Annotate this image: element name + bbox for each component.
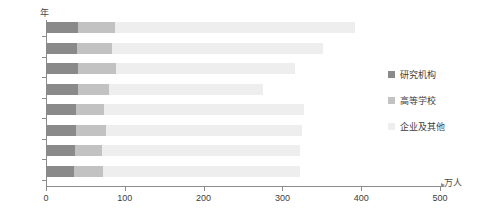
x-axis-tick-label: 100 bbox=[117, 193, 132, 203]
bar-segment bbox=[46, 22, 78, 33]
x-axis-tick-label: 400 bbox=[354, 193, 369, 203]
bar-segment bbox=[46, 104, 76, 115]
legend-label: 研究机构 bbox=[400, 68, 436, 81]
bar-segment bbox=[78, 84, 110, 95]
bar-segment bbox=[46, 166, 74, 177]
x-axis-arrow-icon bbox=[441, 183, 445, 187]
chart-legend: 研究机构高等学校企业及其他 bbox=[388, 68, 445, 133]
y-axis-tick bbox=[42, 77, 46, 78]
legend-swatch-icon bbox=[388, 71, 395, 78]
bar-segment bbox=[109, 84, 263, 95]
legend-swatch-icon bbox=[388, 123, 395, 130]
x-axis-tick bbox=[361, 187, 362, 191]
bar-segment bbox=[116, 63, 295, 74]
y-axis-tick bbox=[42, 98, 46, 99]
stacked-bar-chart: 年 万人 0100200300400500 研究机构高等学校企业及其他 2007… bbox=[0, 0, 477, 215]
x-axis-tick-label: 500 bbox=[432, 193, 447, 203]
bar-segment bbox=[46, 63, 78, 74]
x-axis-tick bbox=[440, 187, 441, 191]
y-axis-tick bbox=[42, 180, 46, 181]
y-axis-tick bbox=[42, 159, 46, 160]
bar-segment bbox=[46, 125, 76, 136]
bar-segment bbox=[104, 104, 304, 115]
y-axis-tick bbox=[42, 139, 46, 140]
y-axis-tick bbox=[42, 36, 46, 37]
x-axis-tick-label: 0 bbox=[43, 193, 48, 203]
bar-segment bbox=[106, 125, 302, 136]
bar-segment bbox=[76, 104, 104, 115]
x-axis-tick-label: 300 bbox=[275, 193, 290, 203]
bar-segment bbox=[78, 63, 116, 74]
bar-segment bbox=[77, 43, 112, 54]
y-axis-tick bbox=[42, 57, 46, 58]
legend-label: 企业及其他 bbox=[400, 120, 445, 133]
x-axis-tick-label: 200 bbox=[196, 193, 211, 203]
bar-segment bbox=[46, 84, 78, 95]
y-axis-tick bbox=[42, 118, 46, 119]
bar-segment bbox=[78, 22, 115, 33]
bar-segment bbox=[75, 145, 102, 156]
bar-segment bbox=[74, 166, 102, 177]
legend-swatch-icon bbox=[388, 97, 395, 104]
y-axis-unit-label: 年 bbox=[40, 6, 49, 19]
x-axis-tick bbox=[46, 187, 47, 191]
legend-item[interactable]: 研究机构 bbox=[388, 68, 445, 81]
bar-segment bbox=[103, 166, 300, 177]
bar-segment bbox=[112, 43, 322, 54]
x-axis-tick bbox=[282, 187, 283, 191]
legend-item[interactable]: 企业及其他 bbox=[388, 120, 445, 133]
x-axis-tick bbox=[125, 187, 126, 191]
x-axis-tick bbox=[204, 187, 205, 191]
legend-item[interactable]: 高等学校 bbox=[388, 94, 445, 107]
legend-label: 高等学校 bbox=[400, 94, 436, 107]
bar-segment bbox=[46, 145, 75, 156]
bar-segment bbox=[115, 22, 355, 33]
bar-segment bbox=[102, 145, 300, 156]
bar-segment bbox=[46, 43, 77, 54]
x-axis-line bbox=[46, 186, 444, 187]
bar-segment bbox=[76, 125, 106, 136]
x-axis-unit-label: 万人 bbox=[444, 176, 462, 189]
